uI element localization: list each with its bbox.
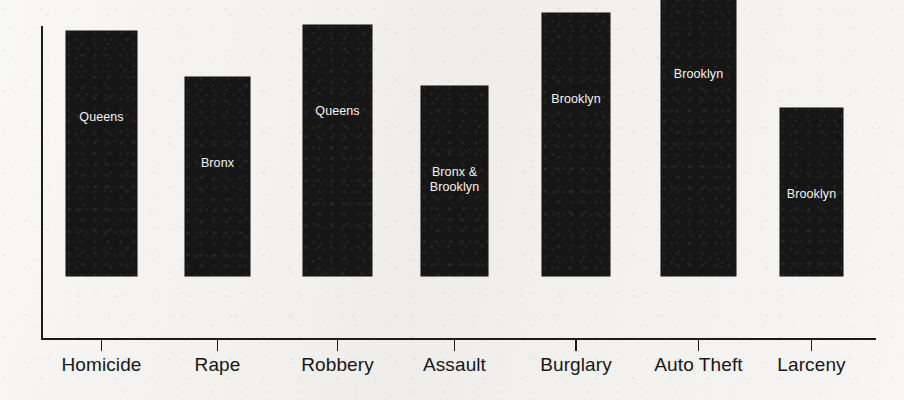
x-axis-line [41,338,876,340]
bar-group: 61%Bronx &Brooklyn [421,0,488,338]
x-axis-category-label: Auto Theft [654,354,742,376]
x-axis-category-label: Assault [423,354,486,376]
bar-group: 93%Brooklyn [661,0,736,338]
x-axis-category-label: Homicide [62,354,142,376]
bar[interactable] [185,77,250,276]
bar-annotation-label: Bronx [201,156,234,171]
x-axis-category-label: Burglary [540,354,612,376]
x-axis-tick [698,340,700,351]
y-axis-line [41,26,43,340]
x-axis-tick [337,340,339,351]
bar-group: 81%Queens [303,0,372,338]
bar-value-label: 93% [678,20,719,43]
bar-group: 85%Brooklyn [542,0,610,338]
bar-chart: 79%Queens64%Bronx81%Queens61%Bronx &Broo… [0,0,904,400]
bar-annotation-label: Brooklyn [787,187,836,202]
bar-group: 79%Queens [66,0,137,338]
x-axis-tick [101,340,103,351]
x-axis-tick [811,340,813,351]
x-axis-category-label: Rape [195,354,241,376]
bar-group: 64%Bronx [185,0,250,338]
bar-annotation-label: Queens [315,104,359,119]
bar-value-label: 79% [81,63,122,86]
x-axis-tick [575,340,577,351]
bar-value-label: 54% [791,140,832,163]
x-axis-tick [454,340,456,351]
bar-annotation-label: Queens [79,110,123,125]
bar-group: 54%Brooklyn [780,0,843,338]
bar-value-label: 64% [197,109,238,132]
x-axis-category-label: Robbery [301,354,374,376]
x-axis-category-label: Larceny [777,354,845,376]
bar-value-label: 61% [434,118,475,141]
bar-value-label: 81% [317,57,358,80]
x-axis-tick [217,340,219,351]
plot-area: 79%Queens64%Bronx81%Queens61%Bronx &Broo… [0,0,904,400]
bar-annotation-label: Brooklyn [674,67,723,82]
bar-annotation-label: Brooklyn [551,92,600,107]
bar-value-label: 85% [556,45,597,68]
bar-annotation-label: Bronx &Brooklyn [430,165,479,195]
